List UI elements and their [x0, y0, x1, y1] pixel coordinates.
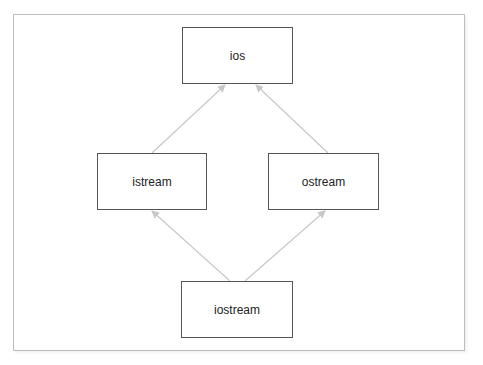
node-ios-label: ios — [230, 49, 245, 63]
node-ostream[interactable]: ostream — [268, 153, 379, 210]
edge-iostream-to-ostream — [245, 211, 325, 281]
node-iostream[interactable]: iostream — [181, 281, 293, 338]
edge-iostream-to-istream — [152, 211, 230, 281]
node-ios[interactable]: ios — [182, 27, 293, 84]
edge-ostream-to-ios — [256, 85, 328, 153]
node-istream-label: istream — [132, 175, 171, 189]
node-istream[interactable]: istream — [97, 153, 207, 210]
edge-istream-to-ios — [152, 85, 225, 153]
node-ostream-label: ostream — [302, 175, 345, 189]
node-iostream-label: iostream — [214, 303, 260, 317]
